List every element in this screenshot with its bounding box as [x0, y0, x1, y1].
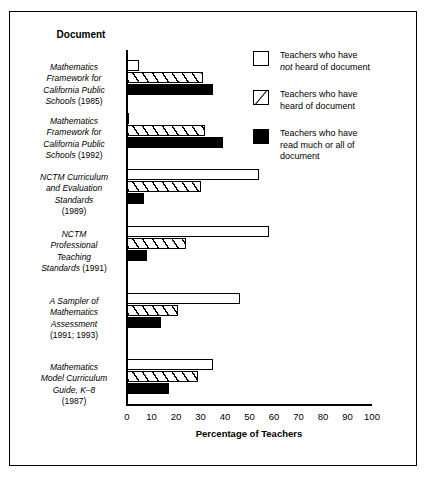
legend-swatch-hatch [253, 90, 269, 105]
category-label-line: Teaching [22, 252, 126, 263]
category-label-line: A Sampler of [22, 296, 126, 307]
x-axis-line [126, 404, 372, 406]
legend-label-line: read much or all of [280, 140, 413, 152]
legend-label-line: document [280, 151, 413, 163]
category-label-line: and Evaluation [22, 183, 126, 194]
bar-white [127, 169, 259, 180]
legend-label: Teachers who haveheard of document [280, 89, 413, 112]
x-tick-label: 80 [311, 411, 335, 422]
bar-hatch [127, 305, 178, 316]
bar-black [127, 137, 223, 148]
x-tick-label: 0 [115, 411, 139, 422]
legend-label-line: heard of document [280, 101, 413, 113]
category-label-line: NCTM Curriculum [22, 172, 126, 183]
legend-label-line: not heard of document [280, 62, 413, 74]
category-label-line: Schools (1985) [22, 96, 126, 107]
bar-hatch [127, 125, 205, 136]
bar-white [127, 60, 139, 71]
category-label: MathematicsFramework forCalifornia Publi… [22, 62, 126, 107]
category-label-line: (1991; 1993) [22, 330, 126, 341]
bar-white [127, 293, 240, 304]
category-label: NCTMProfessionalTeachingStandards (1991) [22, 229, 126, 274]
bar-black [127, 193, 144, 204]
category-label-line: Framework for [22, 127, 126, 138]
category-label-line: Mathematics [22, 116, 126, 127]
legend-label: Teachers who haveread much or all ofdocu… [280, 128, 413, 163]
x-tick-label: 50 [238, 411, 262, 422]
bar-white [127, 359, 213, 370]
legend-label-line: Teachers who have [280, 50, 413, 62]
legend-label-line: Teachers who have [280, 89, 413, 101]
category-label-line: California Public [22, 85, 126, 96]
x-tick-label: 90 [336, 411, 360, 422]
x-tick-label: 60 [262, 411, 286, 422]
x-tick-label: 40 [213, 411, 237, 422]
legend-item-not-heard: Teachers who havenot heard of document [253, 50, 413, 76]
bar-hatch [127, 238, 186, 249]
legend-label: Teachers who havenot heard of document [280, 50, 413, 73]
bar-hatch [127, 181, 201, 192]
category-label-line: Standards (1991) [22, 263, 126, 274]
x-tick-label: 30 [189, 411, 213, 422]
x-tick-label: 10 [140, 411, 164, 422]
category-label-line: Assessment [22, 319, 126, 330]
chart-legend: Teachers who havenot heard of documentTe… [253, 50, 413, 167]
figure-frame: Document MathematicsFramework forCalifor… [9, 11, 417, 466]
bar-hatch [127, 72, 203, 83]
legend-label-line: Teachers who have [280, 128, 413, 140]
category-label-line: California Public [22, 139, 126, 150]
bar-black [127, 84, 213, 95]
bar-black [127, 250, 147, 261]
category-label: A Sampler ofMathematicsAssessment(1991; … [22, 296, 126, 341]
category-label-line: Framework for [22, 73, 126, 84]
legend-item-read-much-or-all: Teachers who haveread much or all ofdocu… [253, 128, 413, 154]
category-label-line: Schools (1992) [22, 150, 126, 161]
category-label: MathematicsFramework forCalifornia Publi… [22, 116, 126, 161]
bar-white [127, 226, 269, 237]
legend-swatch-white [253, 51, 269, 66]
legend-item-heard: Teachers who haveheard of document [253, 89, 413, 115]
category-label: NCTM Curriculumand EvaluationStandards(1… [22, 172, 126, 217]
legend-swatch-black [253, 129, 269, 144]
category-label-line: (1987) [22, 396, 126, 407]
category-label-line: Guide, K–8 [22, 385, 126, 396]
category-label-line: Mathematics [22, 307, 126, 318]
category-label-line: Mathematics [22, 62, 126, 73]
category-label-line: Professional [22, 240, 126, 251]
category-label-line: Standards [22, 195, 126, 206]
bar-black [127, 317, 161, 328]
category-label-line: NCTM [22, 229, 126, 240]
bar-black [127, 383, 169, 394]
category-label-line: (1989) [22, 206, 126, 217]
x-axis-ticks: 0102030405060708090100 [10, 411, 418, 425]
bar-white [127, 113, 129, 124]
x-tick-label: 70 [287, 411, 311, 422]
x-axis-label: Percentage of Teachers [126, 428, 372, 439]
category-label-line: Model Curriculum [22, 373, 126, 384]
x-tick-label: 20 [164, 411, 188, 422]
bar-hatch [127, 371, 198, 382]
category-label: MathematicsModel CurriculumGuide, K–8(19… [22, 362, 126, 407]
category-label-line: Mathematics [22, 362, 126, 373]
x-tick-label: 100 [360, 411, 384, 422]
